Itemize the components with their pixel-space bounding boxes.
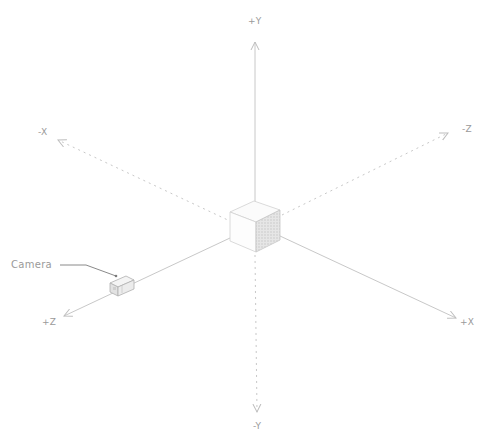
cube-icon bbox=[230, 201, 280, 252]
label-neg-y: -Y bbox=[253, 421, 261, 431]
label-neg-x: -X bbox=[38, 127, 48, 137]
axis-neg-x bbox=[58, 140, 232, 222]
axis-pos-x bbox=[280, 236, 456, 318]
label-camera: Camera bbox=[11, 259, 52, 270]
camera-leader-line bbox=[60, 265, 117, 277]
label-pos-z: +Z bbox=[42, 317, 56, 327]
label-pos-y: +Y bbox=[248, 16, 262, 26]
camera-icon bbox=[110, 276, 134, 296]
axis-neg-y bbox=[255, 255, 257, 412]
axes-canvas bbox=[0, 0, 487, 444]
coordinate-diagram: +Y -Y -X -Z +X +Z Camera bbox=[0, 0, 487, 444]
axis-pos-z bbox=[64, 238, 230, 316]
axis-neg-z bbox=[282, 133, 448, 215]
label-neg-z: -Z bbox=[462, 124, 472, 134]
label-pos-x: +X bbox=[460, 317, 474, 327]
